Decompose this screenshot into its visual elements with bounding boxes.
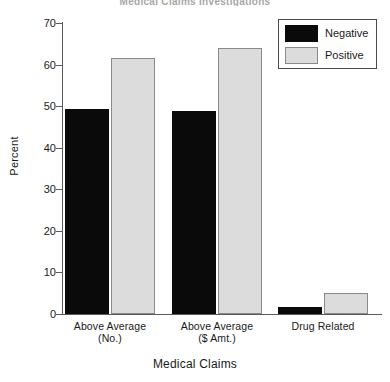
y-tick-label-40: 40 <box>14 148 56 149</box>
bar-positive-group-1 <box>111 58 155 314</box>
y-tick-label-50: 50 <box>14 106 56 107</box>
x-axis-title: Medical Claims <box>0 357 390 371</box>
y-tick-label-60: 60 <box>14 65 56 66</box>
legend-item-negative: Negative <box>285 24 368 42</box>
bar-negative-group-2 <box>172 111 216 314</box>
y-tick-0 <box>56 314 63 315</box>
y-tick-60 <box>56 65 63 66</box>
category-label-line: (No.) <box>50 332 170 344</box>
y-tick-50 <box>56 106 63 107</box>
category-label-2: Above Average($ Amt.) <box>157 320 277 344</box>
chart-title: Medical Claims Investigations <box>0 0 390 6</box>
y-tick-label-10: 10 <box>14 272 56 273</box>
category-label-line: Drug Related <box>263 320 383 332</box>
bar-positive-group-3 <box>324 293 368 314</box>
bar-positive-group-2 <box>218 48 262 314</box>
category-label-1: Above Average(No.) <box>50 320 170 344</box>
y-tick-label-20: 20 <box>14 231 56 232</box>
y-tick-10 <box>56 272 63 273</box>
x-axis-line <box>62 314 382 315</box>
legend-item-positive: Positive <box>285 46 364 64</box>
y-tick-label-70: 70 <box>14 23 56 24</box>
y-tick-40 <box>56 148 63 149</box>
bar-negative-group-3 <box>278 307 322 314</box>
bar-negative-group-1 <box>65 109 109 314</box>
y-tick-label-0: 0 <box>14 314 56 315</box>
y-tick-label-30: 30 <box>14 189 56 190</box>
y-tick-30 <box>56 189 63 190</box>
category-label-line: ($ Amt.) <box>157 332 277 344</box>
legend: Negative Positive <box>278 19 377 69</box>
y-axis-line <box>62 22 63 315</box>
legend-swatch-positive-icon <box>285 47 318 64</box>
y-tick-20 <box>56 231 63 232</box>
category-label-line: Above Average <box>157 320 277 332</box>
y-axis-title: Percent <box>8 106 20 206</box>
legend-label-negative: Negative <box>325 27 368 39</box>
category-label-3: Drug Related <box>263 320 383 332</box>
legend-label-positive: Positive <box>325 49 364 61</box>
category-label-line: Above Average <box>50 320 170 332</box>
bar-chart: Medical Claims Investigations Percent Me… <box>0 0 390 382</box>
legend-swatch-negative-icon <box>285 25 318 42</box>
y-tick-70 <box>56 23 63 24</box>
